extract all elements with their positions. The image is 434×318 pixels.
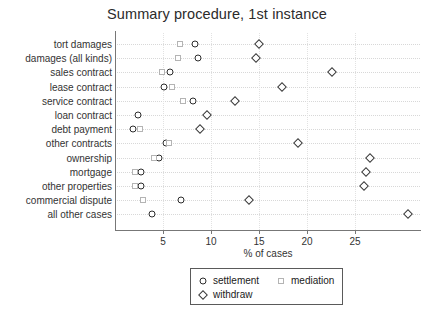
y-axis-tick-label: mortgage (70, 166, 112, 177)
x-axis-tick-label: 25 (349, 236, 360, 247)
chart-legend: settlementmediationwithdraw (190, 268, 343, 305)
scatter-chart: Summary procedure, 1st instance tort dam… (0, 0, 434, 318)
x-axis-tick-label: 5 (160, 236, 166, 247)
data-point-circle (160, 83, 167, 90)
y-axis-tick-label: other properties (42, 181, 112, 192)
data-point-diamond (244, 195, 254, 205)
data-point-circle (194, 55, 201, 62)
data-point-square (132, 183, 138, 189)
x-axis-tick-label: 20 (301, 236, 312, 247)
y-axis-tick-label: service contract (42, 95, 112, 106)
y-axis-tick-label: lease contract (50, 81, 112, 92)
gridline-vertical (211, 33, 212, 230)
gridline-horizontal (115, 44, 420, 45)
data-point-square (180, 98, 186, 104)
gridline-horizontal (115, 129, 420, 130)
x-axis-tick-mark (163, 230, 164, 234)
data-point-square (175, 55, 181, 61)
data-point-diamond (327, 67, 337, 77)
data-point-diamond (230, 96, 240, 106)
data-point-diamond (293, 138, 303, 148)
x-axis-tick-mark (355, 230, 356, 234)
y-axis-tick-label: tort damages (54, 39, 112, 50)
gridline-horizontal (115, 172, 420, 173)
x-axis-line (115, 230, 421, 231)
data-point-circle (166, 69, 173, 76)
x-axis-tick-label: 10 (205, 236, 216, 247)
data-point-square (169, 84, 175, 90)
data-point-diamond (277, 82, 287, 92)
legend-key-diamond-icon (198, 290, 208, 300)
data-point-diamond (403, 209, 413, 219)
x-axis-tick-label: 15 (253, 236, 264, 247)
y-axis-tick-label: sales contract (50, 67, 112, 78)
x-axis-tick-mark (307, 230, 308, 234)
data-point-square (137, 126, 143, 132)
gridline-horizontal (115, 200, 420, 201)
gridline-horizontal (115, 115, 420, 116)
data-point-circle (178, 197, 185, 204)
x-axis-tick-mark (211, 230, 212, 234)
data-point-circle (137, 168, 144, 175)
gridline-horizontal (115, 186, 420, 187)
data-point-diamond (195, 124, 205, 134)
y-axis-tick-label: other contracts (46, 138, 112, 149)
data-point-circle (137, 183, 144, 190)
data-point-square (132, 169, 138, 175)
legend-label: settlement (213, 275, 259, 286)
data-point-diamond (361, 167, 371, 177)
gridline-vertical (163, 33, 164, 230)
y-axis-tick-label: all other cases (48, 209, 112, 220)
gridline-horizontal (115, 58, 420, 59)
gridline-vertical (355, 33, 356, 230)
data-point-circle (149, 211, 156, 218)
data-point-circle (135, 112, 142, 119)
y-axis-category-labels: tort damagesdamages (all kinds)sales con… (0, 0, 112, 318)
x-axis-tick-mark (259, 230, 260, 234)
legend-key-circle-icon (200, 278, 207, 285)
x-axis-label: % of cases (115, 248, 421, 259)
data-point-circle (191, 41, 198, 48)
gridline-horizontal (115, 101, 420, 102)
legend-label: mediation (291, 275, 334, 286)
data-point-circle (189, 97, 196, 104)
data-point-circle (130, 126, 137, 133)
data-point-diamond (254, 39, 264, 49)
legend-label: withdraw (213, 289, 252, 300)
gridline-horizontal (115, 214, 420, 215)
data-point-diamond (365, 153, 375, 163)
gridline-vertical (307, 33, 308, 230)
gridline-vertical (259, 33, 260, 230)
data-point-diamond (359, 181, 369, 191)
legend-key-square-icon (278, 278, 284, 284)
y-axis-line (115, 31, 116, 230)
data-point-square (177, 41, 183, 47)
y-axis-tick-label: debt payment (51, 124, 112, 135)
plot-area (115, 33, 420, 230)
data-point-square (166, 140, 172, 146)
gridline-horizontal (115, 143, 420, 144)
data-point-square (159, 69, 165, 75)
y-axis-tick-label: loan contract (55, 110, 112, 121)
data-point-square (140, 197, 146, 203)
y-axis-tick-label: damages (all kinds) (25, 53, 112, 64)
y-axis-tick-label: ownership (66, 152, 112, 163)
y-axis-tick-label: commercial dispute (26, 195, 112, 206)
data-point-square (151, 155, 157, 161)
